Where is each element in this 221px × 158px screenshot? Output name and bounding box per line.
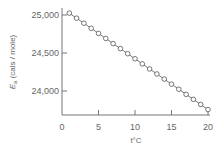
data-point-marker bbox=[162, 77, 167, 82]
data-point-marker bbox=[169, 82, 174, 87]
data-point-marker bbox=[184, 92, 189, 97]
x-axis-label: t°C bbox=[130, 136, 141, 145]
data-point-marker bbox=[147, 67, 152, 72]
data-point-marker bbox=[89, 26, 94, 31]
x-tick-label: 20 bbox=[203, 122, 213, 132]
data-point-marker bbox=[125, 51, 130, 56]
data-point-marker bbox=[74, 16, 79, 21]
data-point-marker bbox=[67, 11, 72, 16]
data-point-marker bbox=[96, 31, 101, 36]
data-point-marker bbox=[118, 46, 123, 51]
data-point-marker bbox=[191, 97, 196, 102]
data-point-marker bbox=[177, 87, 182, 92]
data-point-marker bbox=[111, 41, 116, 46]
svg-text:Ea (cals / mole): Ea (cals / mole) bbox=[8, 34, 18, 89]
y-axis-label: Ea (cals / mole) bbox=[8, 34, 18, 89]
y-label-units: (cals / mole) bbox=[8, 34, 17, 78]
data-point-marker bbox=[133, 56, 138, 61]
data-point-marker bbox=[198, 102, 203, 107]
data-point-marker bbox=[140, 62, 145, 67]
data-point-marker bbox=[206, 107, 211, 112]
x-tick-label: 15 bbox=[166, 122, 176, 132]
data-point-marker bbox=[82, 21, 87, 26]
x-tick-label: 5 bbox=[96, 122, 101, 132]
x-tick-label: 0 bbox=[59, 122, 64, 132]
x-tick-label: 10 bbox=[130, 122, 140, 132]
data-point-marker bbox=[155, 72, 160, 77]
y-tick-label: 24,000 bbox=[31, 86, 59, 96]
x-ticks: 05101520 bbox=[59, 110, 213, 132]
chart: 24,00024,50025,000 05101520 Ea (cals / m… bbox=[0, 0, 221, 158]
y-tick-label: 24,500 bbox=[31, 48, 59, 58]
y-tick-label: 25,000 bbox=[31, 10, 59, 20]
data-series bbox=[67, 11, 210, 112]
data-point-marker bbox=[104, 36, 109, 41]
